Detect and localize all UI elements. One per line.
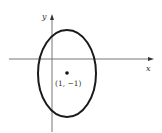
center-label: (1, −1): [55, 79, 82, 88]
center-point: [65, 71, 69, 75]
x-axis-label: x: [146, 64, 151, 73]
diagram-canvas: y x (1, −1): [0, 0, 162, 133]
y-axis-arrow-icon: [50, 14, 54, 20]
y-axis-label: y: [41, 12, 47, 21]
x-axis-arrow-icon: [148, 57, 154, 61]
